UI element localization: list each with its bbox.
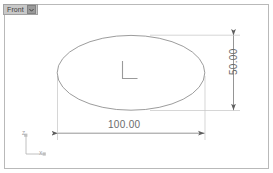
dimension-value-horizontal[interactable]: 100.00 <box>108 119 140 130</box>
axis-triad <box>24 134 46 156</box>
drawing-canvas[interactable] <box>0 0 273 173</box>
ellipse-center-marker <box>123 61 138 79</box>
view-orientation-label-text: Front <box>7 5 27 14</box>
view-orientation-label[interactable]: Front <box>3 4 38 15</box>
cad-viewport[interactable]: Front <box>0 0 273 173</box>
dimension-value-vertical[interactable]: 50.00 <box>228 48 239 75</box>
chevron-down-icon[interactable] <box>27 5 36 14</box>
ellipse-shape[interactable] <box>57 35 205 110</box>
axis-label-z: Z <box>22 131 25 136</box>
extension-lines <box>58 35 241 140</box>
axis-label-x: X <box>39 151 42 156</box>
